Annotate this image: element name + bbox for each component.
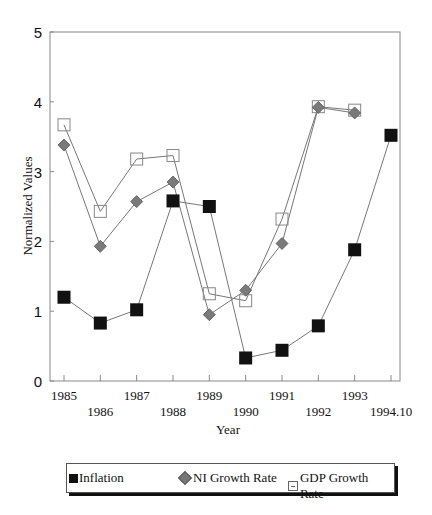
y-tick-label: 0: [34, 373, 42, 390]
legend-item-gdp: GDP Growth Rate: [288, 470, 394, 502]
ni-marker: [203, 309, 215, 321]
y-tick-label: 4: [34, 94, 42, 111]
x-tick-label: 1992: [305, 404, 331, 419]
inflation-marker: [239, 351, 252, 364]
inflation-marker: [167, 194, 180, 207]
inflation-marker: [385, 129, 398, 142]
x-tick-label: 1989: [196, 388, 222, 403]
inflation-marker: [94, 317, 107, 330]
ni-marker: [131, 196, 143, 208]
legend-label-ni: NI Growth Rate: [193, 470, 277, 486]
inflation-marker: [203, 200, 216, 213]
x-tick-label: 1994.10: [370, 404, 412, 419]
inflation-marker: [130, 303, 143, 316]
legend-item-inflation: Inflation: [69, 470, 124, 486]
x-tick-label: 1985: [51, 388, 77, 403]
inflation-marker: [276, 344, 289, 357]
x-axis-title: Year: [216, 422, 241, 437]
ni-marker: [312, 101, 324, 113]
legend-item-ni: NI Growth Rate: [178, 470, 277, 486]
x-tick-label: 1987: [124, 388, 151, 403]
filled-square-icon: [69, 474, 78, 483]
ni-marker: [58, 139, 70, 151]
ni-marker: [276, 237, 288, 249]
x-tick-label: 1991: [269, 388, 295, 403]
x-tick-label: 1990: [233, 404, 259, 419]
open-square-icon: [288, 481, 298, 491]
y-axis-title: Normalized Values: [20, 156, 35, 255]
plot-area: 0123451985198619871988198919901991199219…: [34, 24, 412, 419]
diamond-icon: [178, 471, 192, 485]
ni-marker: [167, 176, 179, 188]
inflation-marker: [348, 243, 361, 256]
gdp-marker: [58, 119, 70, 131]
y-tick-label: 1: [34, 303, 42, 320]
ni-marker: [94, 240, 106, 252]
inflation-marker: [312, 319, 325, 332]
inflation-marker: [58, 291, 71, 304]
legend-label-gdp: GDP Growth Rate: [300, 470, 394, 502]
x-tick-label: 1986: [87, 404, 114, 419]
series-line: [64, 135, 391, 358]
legend-label-inflation: Inflation: [79, 470, 124, 486]
ni-marker: [349, 107, 361, 119]
chart-legend: Inflation NI Growth Rate GDP Growth Rate: [66, 463, 395, 493]
x-tick-label: 1993: [342, 388, 368, 403]
series-layer: [58, 101, 398, 365]
x-tick-label: 1988: [160, 404, 186, 419]
line-chart: 0123451985198619871988198919901991199219…: [0, 0, 432, 460]
y-tick-label: 5: [34, 24, 42, 41]
